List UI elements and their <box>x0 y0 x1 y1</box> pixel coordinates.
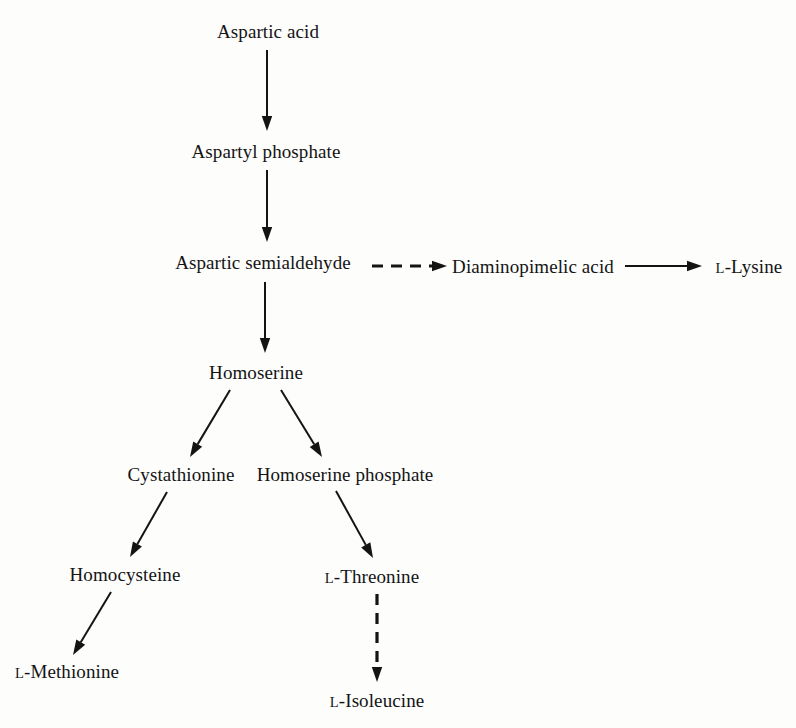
pathway-node-aspartic_semialdehyde: Aspartic semialdehyde <box>175 253 351 272</box>
arrow-aspartyl_phosphate-to-aspartic_semialdehyde <box>262 170 272 242</box>
pathway-node-label: -Methionine <box>24 661 119 682</box>
pathway-node-label: -Threonine <box>334 566 419 587</box>
arrowhead <box>372 667 382 682</box>
pathway-node-aspartic_acid: Aspartic acid <box>217 22 319 41</box>
arrow-homocysteine-to-l_methionine <box>73 592 111 655</box>
arrowhead <box>73 639 85 655</box>
pathway-node-label: Homocysteine <box>70 564 181 585</box>
arrowhead <box>432 261 447 271</box>
stereo-prefix: L <box>15 665 24 681</box>
pathway-node-label: Aspartic acid <box>217 21 319 42</box>
arrow-homoserine-to-cystathionine <box>190 390 230 457</box>
pathway-node-l_lysine: L-Lysine <box>716 257 783 276</box>
pathway-node-label: Homoserine <box>209 362 303 383</box>
pathway-node-l_isoleucine: L-Isoleucine <box>330 691 425 710</box>
pathway-node-homocysteine: Homocysteine <box>70 565 181 584</box>
pathway-node-label: -Isoleucine <box>339 690 425 711</box>
pathway-node-label: Aspartic semialdehyde <box>175 252 351 273</box>
arrowhead <box>687 261 702 271</box>
arrow-homoserine-to-homoserine_phosphate <box>281 390 322 457</box>
pathway-node-homoserine: Homoserine <box>209 363 303 382</box>
pathway-node-homoserine_phosphate: Homoserine phosphate <box>257 465 434 484</box>
arrowhead <box>262 227 272 242</box>
pathway-node-diaminopimelic_acid: Diaminopimelic acid <box>452 257 614 276</box>
arrowhead <box>190 441 202 457</box>
pathway-node-label: -Lysine <box>725 256 783 277</box>
pathway-node-aspartyl_phosphate: Aspartyl phosphate <box>191 142 340 161</box>
arrow-diaminopimelic_acid-to-l_lysine <box>625 261 702 271</box>
pathway-diagram-canvas: Aspartic acidAspartyl phosphateAspartic … <box>0 0 796 728</box>
pathway-node-cystathionine: Cystathionine <box>128 465 235 484</box>
pathway-arrows <box>0 0 796 728</box>
arrow-aspartic_acid-to-aspartyl_phosphate <box>262 50 272 131</box>
arrowhead <box>130 541 142 557</box>
stereo-prefix: L <box>716 260 725 276</box>
stereo-prefix: L <box>325 570 334 586</box>
arrow-aspartic_semialdehyde-to-diaminopimelic_acid <box>372 261 447 271</box>
arrowhead <box>262 116 272 131</box>
arrow-cystathionine-to-homocysteine <box>130 492 167 557</box>
stereo-prefix: L <box>330 694 339 710</box>
pathway-node-label: Aspartyl phosphate <box>191 141 340 162</box>
pathway-node-label: Cystathionine <box>128 464 235 485</box>
pathway-node-label: Diaminopimelic acid <box>452 256 614 277</box>
arrow-homoserine_phosphate-to-l_threonine <box>336 491 373 558</box>
arrowhead <box>310 441 322 457</box>
pathway-node-label: Homoserine phosphate <box>257 464 434 485</box>
arrowhead <box>361 542 373 558</box>
pathway-node-l_threonine: L-Threonine <box>325 567 419 586</box>
arrow-l_threonine-to-l_isoleucine <box>372 594 382 682</box>
pathway-node-l_methionine: L-Methionine <box>15 662 119 681</box>
arrowhead <box>260 338 270 353</box>
arrow-aspartic_semialdehyde-to-homoserine <box>260 282 270 353</box>
